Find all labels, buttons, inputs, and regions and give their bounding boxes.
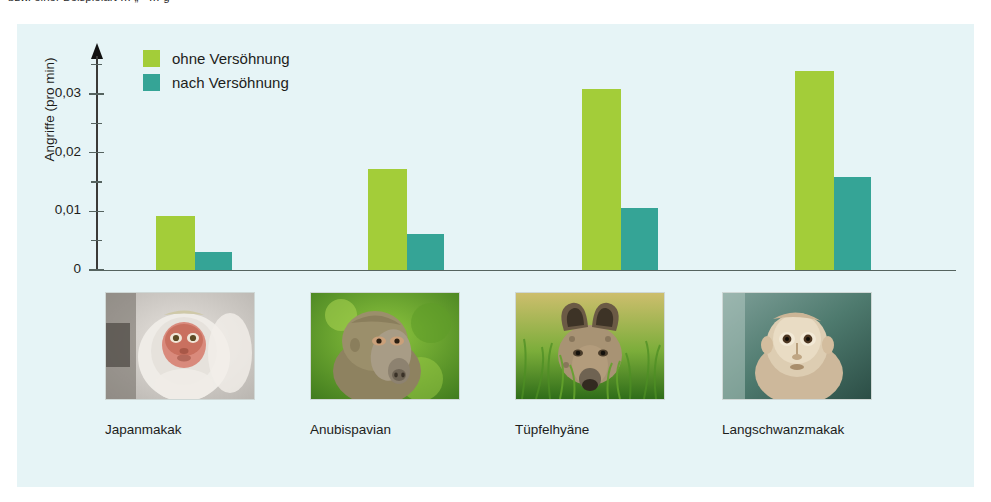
bar-ohne-versoehnung-3 — [582, 89, 621, 270]
species-caption-2: Anubispavian — [310, 422, 460, 437]
species-cell-4: Langschwanzmakak — [722, 292, 872, 437]
olive-baboon-photo — [310, 292, 460, 400]
legend-label-ohne: ohne Versöhnung — [172, 50, 290, 67]
bar-chart: Angriffe (pro min) 00,010,020,03 ohne Ve… — [17, 24, 974, 286]
figure-panel: Angriffe (pro min) 00,010,020,03 ohne Ve… — [17, 24, 974, 487]
species-photo-row: Japanmakak Anubispavian Tüpfelhyäne — [17, 292, 974, 487]
bar-ohne-versoehnung-1 — [156, 216, 195, 270]
bar-ohne-versoehnung-2 — [368, 169, 407, 270]
long-tailed-macaque-photo — [722, 292, 872, 400]
species-caption-3: Tüpfelhyäne — [515, 422, 665, 437]
species-cell-3: Tüpfelhyäne — [515, 292, 665, 437]
cropped-body-text-line: bzw. einer Beispielart … „ “ … g — [8, 0, 170, 3]
species-caption-4: Langschwanzmakak — [722, 422, 872, 437]
japanese-macaque-photo — [105, 292, 255, 400]
species-cell-2: Anubispavian — [310, 292, 460, 437]
bar-nach-versoehnung-2 — [407, 234, 444, 270]
bar-nach-versoehnung-4 — [834, 177, 871, 270]
spotted-hyena-photo — [515, 292, 665, 400]
legend-item-ohne: ohne Versöhnung — [143, 50, 290, 67]
legend-swatch-icon-ohne — [143, 50, 160, 67]
legend-item-nach: nach Versöhnung — [143, 74, 290, 91]
species-caption-1: Japanmakak — [105, 422, 255, 437]
species-cell-1: Japanmakak — [105, 292, 255, 437]
bar-nach-versoehnung-1 — [195, 252, 232, 270]
bar-ohne-versoehnung-4 — [795, 71, 834, 270]
legend-label-nach: nach Versöhnung — [172, 74, 289, 91]
chart-legend: ohne Versöhnung nach Versöhnung — [143, 50, 290, 98]
cropped-body-text: bzw. einer Beispielart … „ “ … g — [0, 0, 991, 10]
bar-nach-versoehnung-3 — [621, 208, 658, 270]
legend-swatch-icon-nach — [143, 74, 160, 91]
